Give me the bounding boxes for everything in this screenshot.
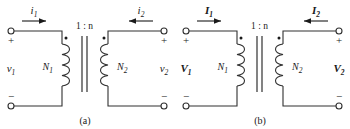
top-left-wire [189, 31, 237, 44]
polarity-sign-top-right: + [161, 34, 167, 46]
current-label-left: I1 [204, 4, 213, 19]
polarity-sign-bottom-right: − [336, 90, 342, 102]
current-label-right: I2 [311, 4, 320, 19]
current-arrow-right-head [129, 18, 136, 24]
bottom-right-wire [108, 86, 161, 106]
polarity-dot-secondary [278, 37, 281, 40]
voltage-label-right: v2 [160, 62, 169, 77]
current-arrow-left-head [214, 18, 221, 24]
top-right-wire [283, 31, 336, 44]
transformer-figure: i1 i2 1 : n N1 N2 v1 v2 + − + − (a) [0, 0, 350, 129]
bottom-left-wire [14, 86, 62, 106]
current-arrow-right-head [304, 18, 311, 24]
primary-winding-coil [62, 44, 70, 86]
polarity-sign-bottom-right: − [161, 90, 167, 102]
turns-ratio-label: 1 : n [76, 21, 93, 31]
winding-label-primary: N1 [42, 61, 53, 75]
terminal-bottom-right[interactable] [336, 103, 342, 109]
voltage-label-left: v1 [7, 62, 16, 77]
polarity-dot-secondary [103, 37, 106, 40]
panel-caption-b: (b) [254, 115, 266, 127]
polarity-sign-top-left: + [183, 34, 189, 46]
turns-ratio-label: 1 : n [251, 21, 268, 31]
terminal-bottom-left[interactable] [8, 103, 14, 109]
current-label-left: i1 [31, 4, 38, 19]
winding-label-secondary: N2 [291, 61, 303, 75]
winding-label-secondary: N2 [116, 61, 128, 75]
top-left-wire [14, 31, 62, 44]
panel-caption-a: (a) [79, 115, 90, 127]
secondary-winding-coil [276, 44, 284, 86]
polarity-sign-top-right: + [336, 34, 342, 46]
polarity-dot-primary [65, 37, 68, 40]
secondary-winding-coil [101, 44, 109, 86]
polarity-sign-top-left: + [8, 34, 14, 46]
terminal-bottom-left[interactable] [183, 103, 189, 109]
bottom-left-wire [189, 86, 237, 106]
polarity-dot-primary [240, 37, 243, 40]
current-arrow-left-head [39, 18, 46, 24]
winding-label-primary: N1 [217, 61, 228, 75]
voltage-label-left: V1 [180, 62, 191, 77]
terminal-bottom-right[interactable] [161, 103, 167, 109]
panel-b: I1 I2 1 : n N1 N2 V1 V2 + − + − (b) [175, 0, 350, 129]
polarity-sign-bottom-left: − [183, 90, 189, 102]
panel-a: i1 i2 1 : n N1 N2 v1 v2 + − + − (a) [0, 0, 175, 129]
polarity-sign-bottom-left: − [8, 90, 14, 102]
current-label-right: i2 [138, 4, 145, 19]
panel-b-diagram: I1 I2 1 : n N1 N2 V1 V2 + − + − (b) [175, 0, 350, 129]
primary-winding-coil [237, 44, 245, 86]
panel-a-diagram: i1 i2 1 : n N1 N2 v1 v2 + − + − (a) [0, 0, 175, 129]
voltage-label-right: V2 [333, 62, 344, 77]
top-right-wire [108, 31, 161, 44]
bottom-right-wire [283, 86, 336, 106]
